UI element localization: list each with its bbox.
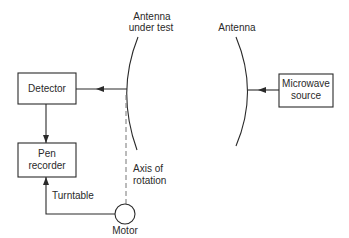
microwave-source-label-1: Microwave <box>282 78 330 89</box>
antenna-label: Antenna <box>218 22 256 33</box>
microwave-source-block: Microwave source <box>279 74 333 107</box>
edge-source-to-antenna <box>248 87 279 93</box>
axis-label-2: rotation <box>133 175 166 186</box>
axis-label-1: Axis of <box>133 163 163 174</box>
antenna-under-test-label-2: under test <box>129 22 174 33</box>
microwave-source-label-2: source <box>291 90 321 101</box>
arrowhead-left-icon <box>258 87 266 93</box>
pen-recorder-label-2: recorder <box>28 160 66 171</box>
pen-recorder-label-1: Pen <box>38 148 56 159</box>
axis-of-rotation: Axis of rotation <box>126 95 166 204</box>
arrowhead-up-icon <box>43 177 49 185</box>
antenna-dish <box>236 37 248 146</box>
motor-circle <box>115 204 135 224</box>
motor-block: Motor <box>112 204 138 236</box>
detector-label: Detector <box>28 83 66 94</box>
edge-detector-to-recorder <box>43 104 49 143</box>
edge-aut-to-detector <box>76 86 127 92</box>
antenna: Antenna <box>218 22 256 146</box>
antenna-under-test-dish <box>127 37 138 150</box>
arrowhead-left-icon <box>96 86 104 92</box>
antenna-under-test-label-1: Antenna <box>133 11 171 22</box>
arrowhead-down-icon <box>43 135 49 143</box>
turntable-label: Turntable <box>52 190 94 201</box>
pen-recorder-block: Pen recorder <box>18 143 76 177</box>
edge-motor-to-recorder: Turntable <box>43 177 115 214</box>
motor-label: Motor <box>112 225 138 236</box>
antenna-under-test: Antenna under test <box>127 11 174 150</box>
antenna-measurement-diagram: Antenna under test Antenna Detector Micr… <box>0 0 349 238</box>
detector-block: Detector <box>18 73 76 104</box>
